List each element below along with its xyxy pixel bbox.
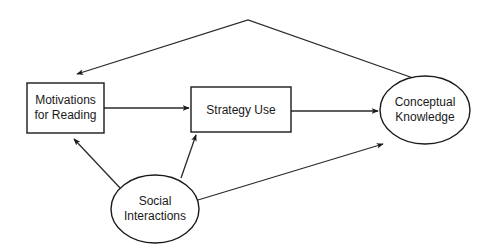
edge-social-to-motivations (74, 139, 121, 189)
edge-conceptual-to-motivations (77, 20, 416, 79)
node-motivations-label-line-1: Motivations (35, 93, 96, 107)
node-strategy-use: Strategy Use (191, 87, 291, 132)
edge-social-to-strategy (181, 135, 196, 178)
node-social-interactions: Social Interactions (111, 175, 199, 243)
edge-social-to-conceptual (198, 144, 383, 200)
node-social-label-line-2: Interactions (124, 209, 186, 223)
node-motivations-for-reading: Motivations for Reading (27, 83, 104, 133)
node-strategy-label: Strategy Use (206, 103, 276, 117)
node-social-label-line-1: Social (139, 194, 172, 208)
node-conceptual-label-line-2: Knowledge (395, 110, 455, 124)
node-motivations-label-line-2: for Reading (34, 108, 96, 122)
node-conceptual-knowledge: Conceptual Knowledge (380, 76, 470, 144)
reading-engagement-diagram: Motivations for Reading Strategy Use Con… (0, 0, 493, 252)
node-conceptual-label-line-1: Conceptual (395, 95, 456, 109)
